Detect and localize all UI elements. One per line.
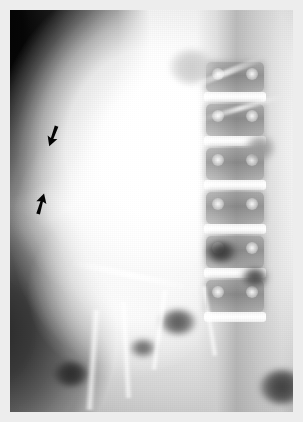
film-vignette — [10, 10, 293, 412]
annotation-arrow-upper — [44, 124, 62, 148]
radiograph-figure — [0, 0, 303, 422]
annotation-arrow-lower — [32, 192, 50, 216]
radiograph-film — [10, 10, 293, 412]
